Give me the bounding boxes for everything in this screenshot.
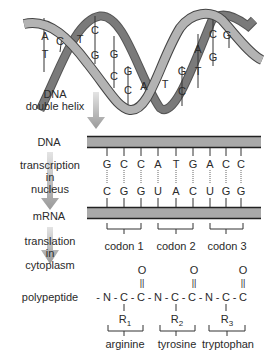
transcription-line1: transcription — [10, 159, 90, 171]
helix-base: C — [90, 24, 100, 36]
mrna-base: G — [119, 185, 129, 197]
helix-base: C — [123, 84, 133, 96]
dna-base: G — [102, 158, 112, 170]
r-group-3: R3 — [218, 313, 236, 330]
dna-strand-bar — [87, 136, 261, 148]
atom-C: C — [119, 291, 129, 303]
helix-base: A — [193, 43, 203, 55]
bond-dash: - — [163, 291, 170, 303]
r-group-subscript: 2 — [179, 319, 183, 328]
atom-N: N — [153, 291, 163, 303]
stage-mrna-label: mRNA — [14, 210, 84, 222]
dna-base: T — [171, 158, 181, 170]
polypeptide-bonds — [124, 304, 226, 311]
stage-dna-label: DNA — [14, 136, 84, 148]
atom-C: C — [238, 291, 248, 303]
carbonyl-oxygen: O — [189, 264, 199, 276]
base-ticks — [107, 148, 241, 207]
stage-translation-label: translation in cytoplasm — [10, 235, 90, 271]
helix-label-line1: DNA — [20, 88, 90, 100]
helix-base: G — [208, 51, 218, 63]
atom-C: C — [136, 291, 146, 303]
r-group-letter: R — [119, 313, 127, 325]
bond-dash: - — [197, 291, 204, 303]
helix-base: T — [160, 78, 170, 90]
helix-base: G — [123, 65, 133, 77]
dna-base: C — [119, 158, 129, 170]
bond-dash: - — [146, 291, 153, 303]
dna-base: C — [136, 158, 146, 170]
amino-acid-tyrosine: tyrosine — [150, 338, 204, 350]
mrna-strand-bar — [87, 207, 261, 219]
hydrogen-bonds — [107, 170, 241, 183]
r-group-1: R1 — [116, 313, 134, 330]
stage-polypeptide-label: polypeptide — [8, 291, 92, 303]
codon-label-3: codon 3 — [202, 240, 252, 252]
translation-line2: in — [10, 247, 90, 259]
polypeptide-backbone: -N-C-C-N-C-C-N-C-C — [94, 291, 248, 303]
helix-base: A — [40, 30, 50, 42]
mrna-base: A — [171, 185, 181, 197]
atom-C: C — [187, 291, 197, 303]
r-group-subscript: 1 — [127, 319, 131, 328]
bond-dash: - — [180, 291, 187, 303]
codon-brackets — [107, 223, 243, 234]
helix-base: A — [139, 80, 149, 92]
mrna-base: U — [153, 185, 163, 197]
bond-dash: - — [231, 291, 238, 303]
bond-dash: - — [129, 291, 136, 303]
helix-label: DNA double helix — [20, 88, 90, 112]
mrna-base: G — [236, 185, 246, 197]
transcription-line3: nucleus — [10, 183, 90, 195]
dna-base: A — [205, 158, 215, 170]
helix-base: G — [177, 65, 187, 77]
helix-base: G — [90, 49, 100, 61]
helix-base: C — [55, 35, 65, 47]
codon-label-1: codon 1 — [99, 240, 149, 252]
helix-base: C — [208, 28, 218, 40]
r-group-letter: R — [171, 313, 179, 325]
helix-base: T — [40, 48, 50, 60]
double-bond: || — [238, 277, 248, 289]
bond-dash: - — [112, 291, 119, 303]
transcription-line2: in — [10, 171, 90, 183]
bond-dash: - — [214, 291, 221, 303]
dna-base: G — [188, 158, 198, 170]
helix-base: G — [109, 48, 119, 60]
helix-base: G — [222, 29, 232, 41]
translation-line3: cytoplasm — [10, 259, 90, 271]
mrna-base: C — [188, 185, 198, 197]
double-bond: || — [189, 277, 199, 289]
atom-N: N — [102, 291, 112, 303]
dna-base: C — [236, 158, 246, 170]
helix-base: T — [75, 33, 85, 45]
mrna-base: G — [221, 185, 231, 197]
amino-acid-tryptophan: tryptophan — [198, 338, 258, 350]
mrna-base: G — [136, 185, 146, 197]
atom-C: C — [221, 291, 231, 303]
dna-base: A — [153, 158, 163, 170]
dna-base: C — [221, 158, 231, 170]
mrna-base: C — [102, 185, 112, 197]
codon-label-2: codon 2 — [151, 240, 201, 252]
carbonyl-oxygen: O — [238, 264, 248, 276]
translation-line1: translation — [10, 235, 90, 247]
amino-acid-arginine: arginine — [98, 338, 152, 350]
r-group-subscript: 3 — [229, 319, 233, 328]
r-group-letter: R — [221, 313, 229, 325]
double-bond: || — [137, 277, 147, 289]
bond-dash: - — [94, 291, 102, 303]
atom-N: N — [204, 291, 214, 303]
stage-transcription-label: transcription in nucleus — [10, 159, 90, 195]
helix-base: C — [109, 70, 119, 82]
mrna-base: U — [205, 185, 215, 197]
helix-base: T — [193, 65, 203, 77]
helix-label-line2: double helix — [20, 100, 90, 112]
helix-base: C — [177, 85, 187, 97]
r-group-2: R2 — [168, 313, 186, 330]
atom-C: C — [170, 291, 180, 303]
carbonyl-oxygen: O — [137, 264, 147, 276]
